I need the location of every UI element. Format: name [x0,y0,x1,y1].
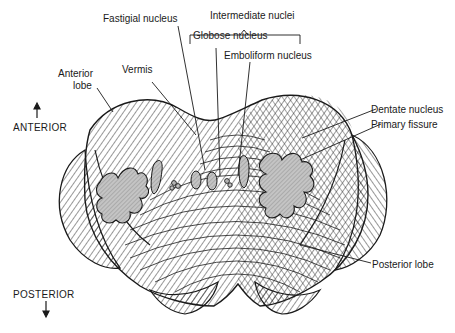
label-posterior-direction: POSTERIOR [13,289,75,300]
emboliform-nucleus-right [239,156,249,188]
label-emboliform-nucleus: Emboliform nucleus [224,50,312,61]
label-anterior-direction: ANTERIOR [13,122,67,133]
label-vermis: Vermis [122,64,153,75]
label-anterior-lobe-line1: Anterior [58,68,93,79]
label-dentate-nucleus: Dentate nucleus [371,104,443,115]
label-globose-nucleus: Globose nucleus [193,30,268,41]
label-intermediate-nuclei: Intermediate nuclei [210,10,295,21]
arrow-down-icon [43,301,49,317]
label-anterior-lobe-line2: lobe [73,80,92,91]
arrow-up-icon [34,103,40,118]
label-fastigial-nucleus: Fastigial nucleus [103,13,177,24]
label-posterior-lobe: Posterior lobe [372,259,434,270]
label-primary-fissure: Primary fissure [371,119,438,130]
